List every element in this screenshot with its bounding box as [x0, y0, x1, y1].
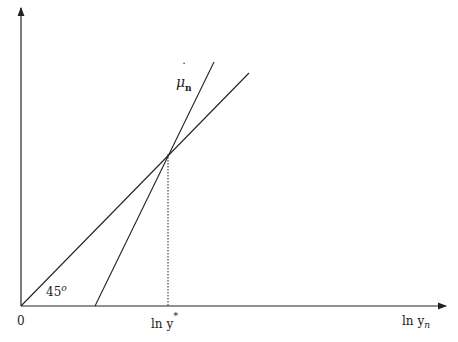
- x-axis-label: ln yn: [402, 314, 430, 330]
- origin-label: 0: [17, 314, 25, 328]
- angle-label: 45o: [46, 283, 67, 299]
- 45-degree-line: [21, 73, 249, 306]
- mu-dot-accent: ˙: [181, 62, 187, 76]
- mu-dot-label: μn: [176, 74, 192, 93]
- diagram-canvas: [0, 0, 458, 342]
- mu-dot-line: [95, 62, 214, 306]
- ln-y-star-label: ln y*: [151, 314, 178, 331]
